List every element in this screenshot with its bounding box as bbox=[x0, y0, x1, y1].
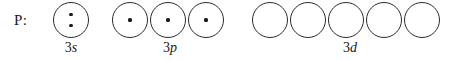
orbital-3p-3[interactable] bbox=[188, 2, 224, 38]
electron-dot bbox=[128, 18, 131, 21]
principal-quantum-number: 3 bbox=[163, 40, 170, 55]
orbital-letter: s bbox=[72, 40, 77, 55]
orbital-letter: d bbox=[350, 40, 357, 55]
orbital-3d-1[interactable] bbox=[252, 2, 288, 38]
electron-dot bbox=[69, 13, 72, 16]
subshell-label-3p: 3p bbox=[112, 40, 228, 56]
electron-dot bbox=[166, 18, 169, 21]
orbital-3p-1[interactable] bbox=[112, 2, 148, 38]
orbital-row bbox=[112, 2, 224, 38]
electron-dots bbox=[113, 3, 147, 37]
orbital-row bbox=[252, 2, 440, 38]
electron-dot bbox=[69, 24, 72, 27]
orbital-letter: p bbox=[170, 40, 177, 55]
orbital-3p-2[interactable] bbox=[150, 2, 186, 38]
subshell-group-3p: 3p bbox=[112, 0, 228, 61]
orbital-3d-2[interactable] bbox=[290, 2, 326, 38]
orbital-3d-4[interactable] bbox=[366, 2, 402, 38]
element-symbol-label: P: bbox=[14, 12, 28, 29]
subshell-group-3s: 3s bbox=[53, 0, 89, 61]
orbital-3s-1[interactable] bbox=[53, 2, 89, 38]
orbital-row bbox=[53, 2, 89, 38]
principal-quantum-number: 3 bbox=[343, 40, 350, 55]
orbital-3d-5[interactable] bbox=[404, 2, 440, 38]
subshell-group-3d: 3d bbox=[252, 0, 448, 61]
orbital-diagram: P: 3s3p3d bbox=[0, 0, 460, 61]
electron-dots bbox=[151, 3, 185, 37]
subshell-label-3d: 3d bbox=[252, 40, 448, 56]
electron-dots bbox=[189, 3, 223, 37]
electron-dots bbox=[54, 3, 88, 37]
electron-dot bbox=[204, 18, 207, 21]
principal-quantum-number: 3 bbox=[65, 40, 72, 55]
orbital-3d-3[interactable] bbox=[328, 2, 364, 38]
subshell-label-3s: 3s bbox=[53, 40, 89, 56]
